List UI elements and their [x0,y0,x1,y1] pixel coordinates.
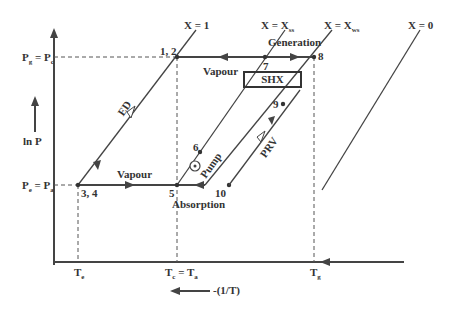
label-x-0: X = 0 [408,20,433,31]
point-1-2: 1, 2 [160,46,177,57]
point-9: 9 [273,99,279,110]
diagram-graphics [0,0,451,314]
label-te: Te [74,267,84,281]
label-pe-pa: Pe = Pa [22,180,54,194]
label-generation: Generation [268,37,321,48]
point-8: 8 [318,51,324,62]
x-axis-label: -(1/T) [213,285,240,296]
point-6: 6 [193,142,199,153]
absorption-cycle-diagram: Pg = Pc Pe = Pa ln P Te Tc = Ta Tg -(1/T… [0,0,451,314]
shx-box: SHX [243,71,302,88]
label-x-1: X = 1 [184,20,209,31]
point-3-4: 3, 4 [81,188,98,199]
y-axis-label: ln P [23,136,42,147]
label-absorption: Absorption [172,199,225,210]
label-tc-ta: Tc = Ta [165,267,198,281]
label-vapour-top: Vapour [203,66,238,77]
label-x-xss: X = Xss [261,20,294,34]
label-vapour-bottom: Vapour [117,169,152,180]
label-x-xws: X = Xws [324,20,359,34]
label-pg-pc: Pg = Pc [22,52,54,66]
label-tg: Tg [310,267,321,281]
